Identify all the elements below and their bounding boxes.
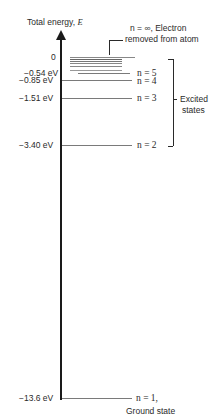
removed-label: removed from atom: [125, 35, 199, 44]
energy-label-n4: −0.85 eV: [19, 76, 53, 85]
energy-axis: [60, 36, 62, 400]
energy-label-n1: −13.6 eV: [19, 394, 53, 403]
level-n1: [62, 398, 132, 399]
continuum-levels: [70, 57, 122, 71]
level-n2: [62, 145, 132, 146]
infinity-label: n = ∞, Electron: [130, 24, 186, 33]
level-0: [70, 57, 135, 58]
ground-state-label: Ground state: [126, 407, 175, 416]
axis-label: Total energy, E: [27, 18, 83, 27]
level-n4: [62, 80, 132, 81]
level-n3: [62, 98, 132, 99]
n-label-1: n = 1,: [136, 393, 158, 403]
n-label-3: n = 3: [137, 93, 157, 103]
energy-label-n2: −3.40 eV: [19, 141, 53, 150]
level-n5: [78, 73, 130, 74]
n-label-4: n = 4: [137, 76, 157, 86]
excited-label-1: Excited: [180, 95, 208, 104]
energy-label-n3: −1.51 eV: [19, 94, 53, 103]
energy-label-0: 0: [51, 53, 56, 62]
annotation-leader-v: [109, 40, 110, 55]
excited-states-brace: [168, 59, 174, 147]
n-label-2: n = 2: [137, 140, 157, 150]
annotation-leader-h: [109, 40, 123, 41]
excited-label-2: states: [182, 106, 205, 115]
